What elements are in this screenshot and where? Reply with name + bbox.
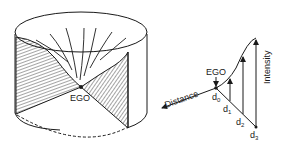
intensity-distance-diagram: EGO Distance Intensity d0 d1 d2 d3 [162,38,272,141]
intensity-axis-label: Intensity [262,50,272,84]
d1-label: d1 [223,104,232,115]
ego-point-right [214,86,218,90]
figure-canvas: EGO EGO Distance Intensity d0 d1 d2 d3 [0,0,281,148]
ego-point [79,85,83,89]
d2-label: d2 [236,117,245,128]
distance-axis-label: Distance [163,89,199,110]
intensity-curve [216,38,256,88]
cylinder-diagram: EGO [15,12,147,137]
ego-label-left: EGO [70,93,90,103]
ego-label-right: EGO [206,67,226,77]
d0-label: d0 [212,92,221,103]
d3-label: d3 [250,130,259,141]
